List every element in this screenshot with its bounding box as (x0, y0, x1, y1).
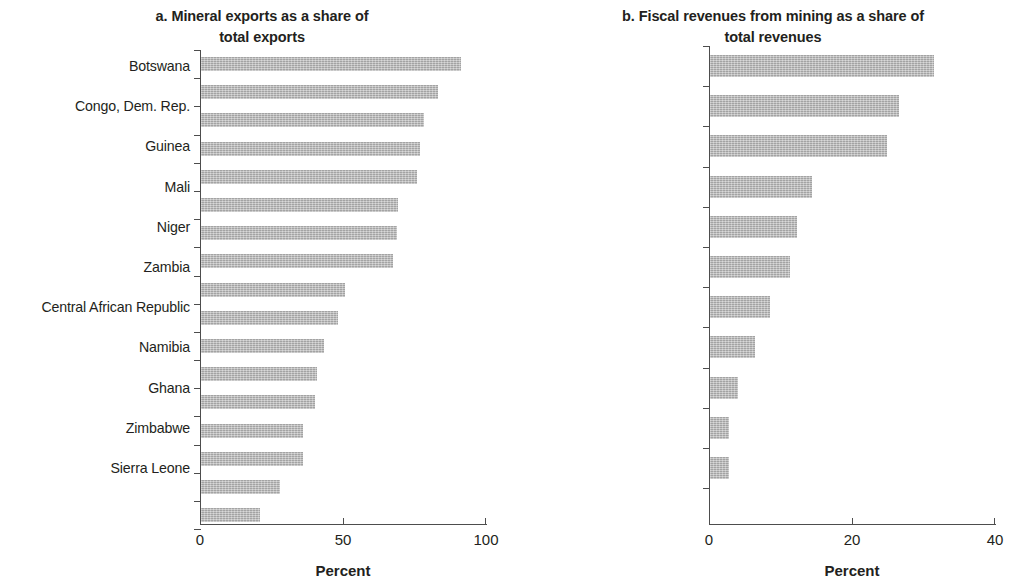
category-label: Ghana (148, 381, 190, 395)
x-axis-tick (485, 518, 486, 525)
bar (201, 395, 315, 409)
x-axis-tick-label: 20 (844, 531, 861, 548)
y-axis-tick (194, 416, 201, 417)
x-axis-title: Percent (824, 562, 879, 579)
category-label: Central African Republic (41, 300, 190, 314)
y-axis-tick (194, 219, 201, 220)
y-axis-tick (703, 207, 710, 208)
x-axis-tick (994, 518, 995, 525)
y-axis-tick (703, 167, 710, 168)
y-axis-tick (194, 360, 201, 361)
bar (710, 256, 790, 278)
y-axis-tick (703, 46, 710, 47)
y-axis-tick (194, 332, 201, 333)
bar (710, 95, 899, 117)
panel-b-title-line2: total revenues (725, 29, 822, 45)
bar (201, 367, 317, 381)
y-axis-tick (703, 126, 710, 127)
x-axis-tick (343, 518, 344, 525)
bar (201, 508, 260, 522)
bar (201, 113, 424, 127)
bar (201, 283, 345, 297)
category-label: Zambia (144, 260, 190, 274)
panel-b-title-line1: b. Fiscal revenues from mining as a shar… (622, 8, 924, 24)
bar (201, 424, 303, 438)
bar (201, 311, 338, 325)
bar (201, 452, 303, 466)
bar (710, 176, 812, 198)
y-axis-tick (194, 501, 201, 502)
category-label: Congo, Dem. Rep. (75, 99, 190, 113)
x-axis-tick-label: 100 (473, 531, 498, 548)
panel-a-title-line2: total exports (219, 29, 305, 45)
y-axis-tick (703, 247, 710, 248)
x-axis-tick-label: 50 (335, 531, 352, 548)
category-label: Niger (157, 220, 190, 234)
category-label: Botswana (129, 59, 190, 73)
bar (710, 417, 729, 439)
bar (710, 216, 797, 238)
category-label: Guinea (145, 139, 190, 153)
panel-b-title: b. Fiscal revenues from mining as a shar… (514, 6, 1028, 48)
category-label: Zimbabwe (126, 421, 190, 435)
y-axis-tick (703, 327, 710, 328)
bar (710, 457, 729, 479)
x-axis-tick (709, 518, 710, 525)
y-axis-tick (194, 445, 201, 446)
panel-a-title-line1: a. Mineral exports as a share of (156, 8, 369, 24)
y-axis-tick (703, 368, 710, 369)
x-axis-title: Percent (315, 562, 370, 579)
y-axis-tick (194, 304, 201, 305)
x-axis-tick-label: 0 (705, 531, 713, 548)
y-axis-tick (194, 191, 201, 192)
bar (710, 377, 738, 399)
category-label: Mali (165, 180, 190, 194)
y-axis-tick (703, 287, 710, 288)
y-axis-tick (703, 448, 710, 449)
bar (710, 135, 887, 157)
y-axis-tick (194, 247, 201, 248)
panel-a-title: a. Mineral exports as a share of total e… (0, 6, 514, 48)
x-axis-tick (200, 518, 201, 525)
bar (201, 226, 397, 240)
bar (201, 339, 324, 353)
bar (201, 480, 280, 494)
y-axis-tick (194, 388, 201, 389)
bar (201, 198, 398, 212)
y-axis-tick (703, 408, 710, 409)
y-axis-tick (194, 50, 201, 51)
bar (201, 85, 438, 99)
x-axis-tick (852, 518, 853, 525)
x-axis-tick-label: 40 (987, 531, 1004, 548)
panel-a: a. Mineral exports as a share of total e… (0, 0, 514, 581)
figure-two-panel-bar-charts: a. Mineral exports as a share of total e… (0, 0, 1028, 581)
category-label: Namibia (139, 340, 190, 354)
y-axis-tick (194, 135, 201, 136)
y-axis-tick (194, 78, 201, 79)
bar (710, 336, 755, 358)
y-axis-tick (194, 163, 201, 164)
bar (201, 254, 393, 268)
y-axis-tick (703, 488, 710, 489)
y-axis-line (709, 46, 710, 524)
y-axis-tick (194, 106, 201, 107)
y-axis-tick (194, 276, 201, 277)
bar (201, 142, 420, 156)
bar (710, 55, 934, 77)
bar (710, 296, 770, 318)
x-axis-tick-label: 0 (196, 531, 204, 548)
category-label: Sierra Leone (111, 461, 190, 475)
y-axis-tick (194, 473, 201, 474)
panel-b: b. Fiscal revenues from mining as a shar… (514, 0, 1028, 581)
y-axis-tick (703, 86, 710, 87)
bar (201, 170, 417, 184)
bar (201, 57, 461, 71)
